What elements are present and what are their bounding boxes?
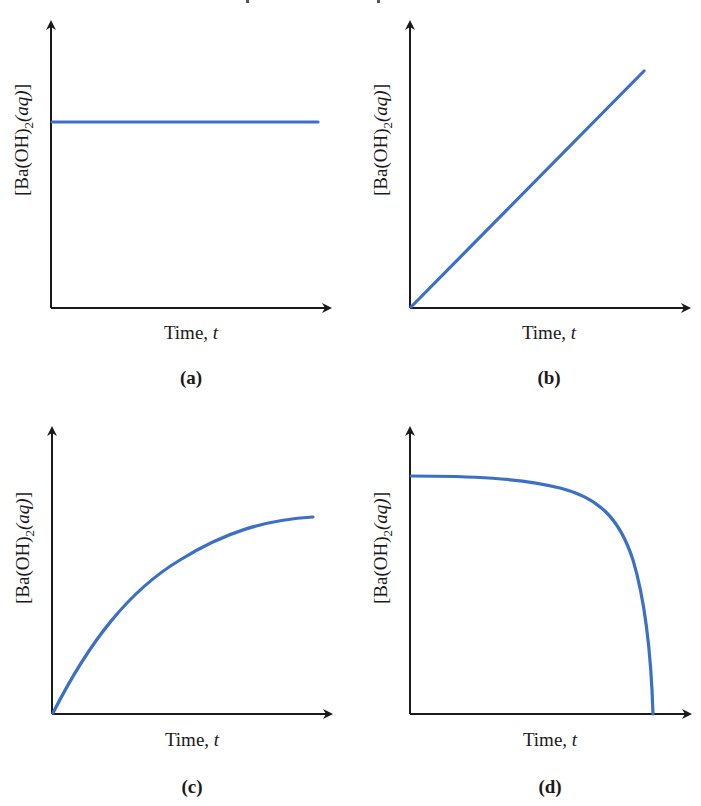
panel-c: [Ba(OH)2(aq)] Time, t (c) <box>12 428 331 798</box>
x-axis-label: Time, t <box>164 322 219 343</box>
x-axis-label: Time, t <box>165 729 220 750</box>
panel-letter: (c) <box>181 776 202 798</box>
data-curve <box>411 71 644 307</box>
clipped-text-fragment <box>377 0 380 3</box>
y-axis-label: [Ba(OH)2(aq)] <box>370 492 395 604</box>
figure: [Ba(OH)2(aq)] Time, t (a) [Ba(OH)2(aq)] … <box>0 0 701 806</box>
x-axis-label: Time, t <box>522 322 577 343</box>
y-axis-label: [Ba(OH)2(aq)] <box>12 492 37 604</box>
panel-b: [Ba(OH)2(aq)] Time, t (b) <box>370 22 689 389</box>
panel-a: [Ba(OH)2(aq)] Time, t (a) <box>11 22 330 389</box>
x-axis-label: Time, t <box>523 729 578 750</box>
data-curve <box>53 517 313 713</box>
y-axis-label: [Ba(OH)2(aq)] <box>370 84 395 196</box>
y-axis-label: [Ba(OH)2(aq)] <box>11 84 36 196</box>
data-curve <box>411 476 653 714</box>
panel-letter: (a) <box>180 367 202 389</box>
panel-letter: (d) <box>538 776 561 798</box>
clipped-text-fragment <box>246 0 249 3</box>
panel-letter: (b) <box>537 367 560 389</box>
panel-d: [Ba(OH)2(aq)] Time, t (d) <box>370 428 690 798</box>
